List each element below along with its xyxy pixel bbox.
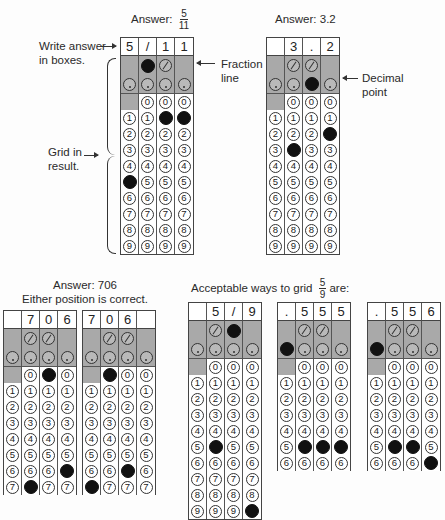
decimal-bubble[interactable] bbox=[24, 351, 37, 364]
digit-bubble[interactable]: 3 bbox=[280, 409, 293, 422]
digit-bubble[interactable]: 5 bbox=[85, 449, 98, 462]
digit-bubble[interactable]: 1 bbox=[141, 112, 154, 125]
digit-bubble[interactable]: 5 bbox=[305, 176, 318, 189]
filled-digit-bubble[interactable]: 6 bbox=[60, 464, 74, 478]
digit-bubble[interactable]: 0 bbox=[178, 96, 191, 109]
digit-bubble[interactable]: 8 bbox=[159, 224, 172, 237]
decimal-bubble[interactable] bbox=[103, 351, 116, 364]
decimal-bubble[interactable] bbox=[324, 78, 337, 91]
digit-bubble[interactable]: 8 bbox=[141, 224, 154, 237]
decimal-bubble[interactable] bbox=[191, 343, 204, 356]
digit-bubble[interactable]: 1 bbox=[227, 377, 240, 390]
digit-bubble[interactable]: 5 bbox=[178, 176, 191, 189]
digit-bubble[interactable]: 1 bbox=[335, 377, 348, 390]
digit-bubble[interactable]: 0 bbox=[61, 369, 74, 382]
digit-bubble[interactable]: 4 bbox=[335, 425, 348, 438]
digit-bubble[interactable]: 4 bbox=[269, 160, 282, 173]
answer-box[interactable] bbox=[137, 311, 155, 329]
digit-bubble[interactable]: 3 bbox=[141, 144, 154, 157]
digit-bubble[interactable]: 2 bbox=[227, 393, 240, 406]
answer-box[interactable]: 7 bbox=[22, 311, 40, 329]
slash-bubble[interactable] bbox=[287, 59, 300, 72]
digit-bubble[interactable]: 8 bbox=[191, 489, 204, 502]
digit-bubble[interactable]: 9 bbox=[159, 240, 172, 253]
digit-bubble[interactable]: 8 bbox=[287, 224, 300, 237]
digit-bubble[interactable]: 7 bbox=[42, 481, 55, 494]
digit-bubble[interactable]: 7 bbox=[140, 481, 153, 494]
decimal-bubble[interactable] bbox=[406, 343, 419, 356]
digit-bubble[interactable]: 4 bbox=[141, 160, 154, 173]
digit-bubble[interactable]: 7 bbox=[324, 208, 337, 221]
digit-bubble[interactable]: 6 bbox=[316, 457, 329, 470]
filled-digit-bubble[interactable]: 9 bbox=[245, 504, 259, 518]
digit-bubble[interactable]: 0 bbox=[141, 96, 154, 109]
filled-digit-bubble[interactable]: 5 bbox=[298, 440, 312, 454]
digit-bubble[interactable]: 4 bbox=[324, 160, 337, 173]
digit-bubble[interactable]: 2 bbox=[24, 401, 37, 414]
digit-bubble[interactable]: 9 bbox=[305, 240, 318, 253]
digit-bubble[interactable]: 4 bbox=[42, 433, 55, 446]
slash-bubble[interactable] bbox=[316, 324, 329, 337]
digit-bubble[interactable]: 3 bbox=[305, 144, 318, 157]
answer-box[interactable]: 6 bbox=[58, 311, 76, 329]
digit-bubble[interactable]: 8 bbox=[123, 224, 136, 237]
digit-bubble[interactable]: 2 bbox=[406, 393, 419, 406]
filled-digit-bubble[interactable]: 6 bbox=[424, 456, 438, 470]
digit-bubble[interactable]: 3 bbox=[298, 409, 311, 422]
digit-bubble[interactable]: 3 bbox=[269, 144, 282, 157]
decimal-bubble[interactable] bbox=[246, 343, 259, 356]
digit-bubble[interactable]: 6 bbox=[335, 457, 348, 470]
digit-bubble[interactable]: 4 bbox=[298, 425, 311, 438]
digit-bubble[interactable]: 8 bbox=[209, 489, 222, 502]
digit-bubble[interactable]: 9 bbox=[227, 505, 240, 518]
digit-bubble[interactable]: 7 bbox=[227, 473, 240, 486]
digit-bubble[interactable]: 7 bbox=[6, 481, 19, 494]
digit-bubble[interactable]: 6 bbox=[103, 465, 116, 478]
answer-box[interactable]: 0 bbox=[40, 311, 58, 329]
digit-bubble[interactable]: 6 bbox=[370, 457, 383, 470]
digit-bubble[interactable]: 9 bbox=[209, 505, 222, 518]
answer-box[interactable]: 5 bbox=[207, 303, 225, 321]
digit-bubble[interactable]: 8 bbox=[178, 224, 191, 237]
answer-box[interactable]: 5 bbox=[121, 38, 139, 56]
decimal-bubble[interactable] bbox=[61, 351, 74, 364]
digit-bubble[interactable]: 6 bbox=[123, 192, 136, 205]
digit-bubble[interactable]: 7 bbox=[159, 208, 172, 221]
digit-bubble[interactable]: 2 bbox=[159, 128, 172, 141]
digit-bubble[interactable]: 2 bbox=[425, 393, 438, 406]
answer-box[interactable]: . bbox=[303, 38, 321, 56]
digit-bubble[interactable]: 1 bbox=[61, 385, 74, 398]
digit-bubble[interactable]: 3 bbox=[227, 409, 240, 422]
digit-bubble[interactable]: 3 bbox=[103, 417, 116, 430]
digit-bubble[interactable]: 1 bbox=[425, 377, 438, 390]
digit-bubble[interactable]: 9 bbox=[324, 240, 337, 253]
decimal-bubble[interactable] bbox=[123, 78, 136, 91]
digit-bubble[interactable]: 5 bbox=[140, 449, 153, 462]
answer-box[interactable]: 5 bbox=[296, 303, 314, 321]
digit-bubble[interactable]: 5 bbox=[159, 176, 172, 189]
digit-bubble[interactable]: 0 bbox=[287, 96, 300, 109]
digit-bubble[interactable]: 5 bbox=[42, 449, 55, 462]
digit-bubble[interactable]: 1 bbox=[6, 385, 19, 398]
digit-bubble[interactable]: 0 bbox=[425, 361, 438, 374]
digit-bubble[interactable]: 4 bbox=[140, 433, 153, 446]
filled-digit-bubble[interactable]: 5 bbox=[406, 440, 420, 454]
digit-bubble[interactable]: 8 bbox=[227, 489, 240, 502]
digit-bubble[interactable]: 7 bbox=[246, 473, 259, 486]
filled-digit-bubble[interactable]: 5 bbox=[334, 440, 348, 454]
digit-bubble[interactable]: 1 bbox=[324, 112, 337, 125]
digit-bubble[interactable]: 6 bbox=[209, 457, 222, 470]
digit-bubble[interactable]: 5 bbox=[24, 449, 37, 462]
digit-bubble[interactable]: 7 bbox=[61, 481, 74, 494]
digit-bubble[interactable]: 6 bbox=[246, 457, 259, 470]
digit-bubble[interactable]: 4 bbox=[159, 160, 172, 173]
filled-digit-bubble[interactable]: 6 bbox=[121, 464, 135, 478]
digit-bubble[interactable]: 6 bbox=[388, 457, 401, 470]
slash-bubble[interactable] bbox=[209, 324, 222, 337]
digit-bubble[interactable]: 4 bbox=[191, 425, 204, 438]
answer-box[interactable]: 5 bbox=[332, 303, 350, 321]
digit-bubble[interactable]: 4 bbox=[425, 425, 438, 438]
slash-bubble[interactable] bbox=[298, 324, 311, 337]
digit-bubble[interactable]: 2 bbox=[121, 401, 134, 414]
digit-bubble[interactable]: 4 bbox=[227, 425, 240, 438]
